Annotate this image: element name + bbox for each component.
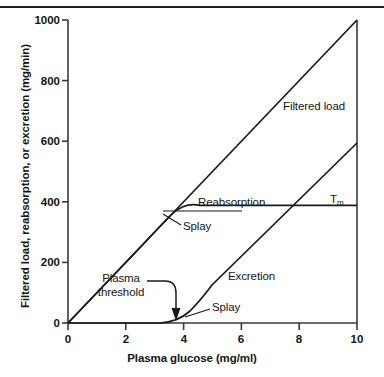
y-tick-label-800: 800 — [10, 75, 60, 87]
x-tick-label-10: 10 — [351, 333, 364, 345]
y-tick-label-400: 400 — [10, 196, 60, 208]
plasma-threshold-label: Plasmathreshold — [92, 272, 150, 299]
x-tick-label-0: 0 — [65, 333, 71, 345]
excretion-label: Excretion — [228, 270, 275, 282]
y-tick-label-600: 600 — [10, 135, 60, 147]
tm-base-text: T — [330, 193, 337, 205]
x-tick-label-4: 4 — [181, 333, 187, 345]
caption-clipped-strip — [0, 370, 384, 377]
x-tick-label-2: 2 — [123, 333, 129, 345]
tm-label: Tm — [330, 193, 344, 205]
x-tick-label-8: 8 — [296, 333, 302, 345]
plasma-threshold-arrow-shaft — [147, 281, 176, 309]
tm-subscript-text: m — [337, 198, 344, 207]
renal-glucose-titration-figure: 0 200 400 600 800 1000 0 2 4 6 8 10 Plas… — [0, 0, 384, 377]
filtered-load-label: Filtered load — [283, 100, 345, 112]
reabsorption-label: Reabsorption — [198, 196, 265, 208]
plasma-threshold-line2: threshold — [98, 286, 144, 298]
y-tick-label-1000: 1000 — [10, 14, 60, 26]
y-axis-title: Filtered load, reabsorption, or excretio… — [19, 21, 31, 331]
x-tick-label-6: 6 — [238, 333, 244, 345]
x-axis-title: Plasma glucose (mg/ml) — [0, 352, 384, 364]
y-axis-ticks — [62, 20, 68, 323]
splay-upper-label: Splay — [183, 220, 211, 232]
splay-lower-label: Splay — [212, 301, 240, 313]
x-axis-ticks — [68, 323, 357, 330]
y-tick-label-200: 200 — [10, 256, 60, 268]
y-tick-label-0: 0 — [10, 317, 60, 329]
plasma-threshold-line1: Plasma — [102, 272, 140, 284]
